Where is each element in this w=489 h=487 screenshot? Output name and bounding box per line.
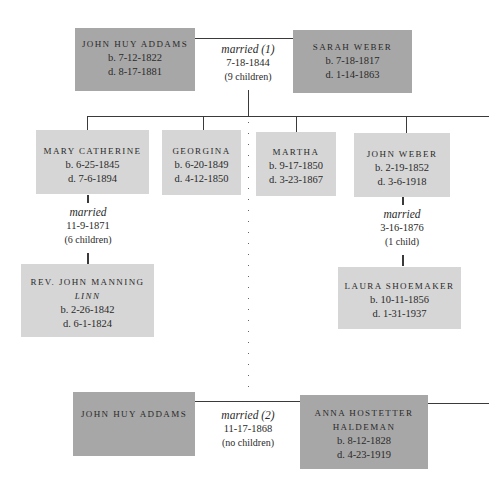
separator-dot <box>248 320 249 321</box>
separator-dot <box>248 221 249 222</box>
death-date: d. 3-23-1867 <box>256 173 336 187</box>
birth-date: b. 7-18-1817 <box>293 54 412 68</box>
marriage-date: 7-18-1844 <box>210 56 286 70</box>
separator-dot <box>248 276 249 277</box>
separator-dot <box>248 342 249 343</box>
separator-dot <box>248 177 249 178</box>
marriage-date: 11-17-1868 <box>210 422 286 436</box>
birth-date: b. 9-17-1850 <box>256 159 336 173</box>
separator-dot <box>248 265 249 266</box>
birth-date: b. 10-11-1856 <box>338 293 461 307</box>
child1-marriage-up <box>87 195 89 203</box>
death-date: d. 8-17-1881 <box>75 65 195 79</box>
separator-dot <box>248 353 249 354</box>
death-date: d. 7-6-1894 <box>36 172 149 186</box>
person-name: Mary Catherine <box>36 144 149 158</box>
person-box-john-weber[interactable]: John Weber b. 2-19-1852 d. 3-6-1918 <box>354 133 450 197</box>
marriage-label: married (2) <box>210 408 286 422</box>
death-date: d. 1-14-1863 <box>293 68 412 82</box>
child4-marriage-note: married 3-16-1876 (1 child) <box>364 207 440 249</box>
person-name: John Huy Addams <box>75 37 195 51</box>
person-name: John Weber <box>354 147 450 161</box>
separator-dot <box>248 166 249 167</box>
separator-dot <box>248 155 249 156</box>
children-count: (6 children) <box>50 233 126 247</box>
death-date: d. 4-12-1850 <box>162 172 241 186</box>
separator-dot <box>248 188 249 189</box>
separator-dot <box>248 210 249 211</box>
person-box-martha[interactable]: Martha b. 9-17-1850 d. 3-23-1867 <box>256 132 336 196</box>
person-name: Anna Hostetter <box>300 406 428 420</box>
person-name: Georgina <box>162 144 241 158</box>
person-box-anna-hostetter-haldeman[interactable]: Anna Hostetter Haldeman b. 8-12-1828 d. … <box>300 395 428 469</box>
separator-dot <box>248 232 249 233</box>
death-date: d. 1-31-1937 <box>338 307 461 321</box>
separator-dot <box>248 254 249 255</box>
child4-marriage-down <box>402 255 404 266</box>
children-bar <box>87 116 489 117</box>
person-name: John Huy Addams <box>73 407 195 421</box>
person-name: Martha <box>256 145 336 159</box>
separator-dot <box>248 298 249 299</box>
separator-dot <box>248 243 249 244</box>
separator-dot <box>248 364 249 365</box>
person-name: Laura Shoemaker <box>338 279 461 293</box>
birth-date: b. 8-12-1828 <box>300 434 428 448</box>
marriage-label: married <box>364 207 440 221</box>
person-box-mary-catherine[interactable]: Mary Catherine b. 6-25-1845 d. 7-6-1894 <box>36 130 149 194</box>
separator-dot <box>248 144 249 145</box>
separator-dot <box>248 122 249 123</box>
person-box-john-huy-addams[interactable]: John Huy Addams b. 7-12-1822 d. 8-17-188… <box>75 28 195 91</box>
marriage-date: 3-16-1876 <box>364 221 440 235</box>
birth-date: b. 6-20-1849 <box>162 158 241 172</box>
child3-drop <box>296 116 297 132</box>
person-name: Sarah Weber <box>293 40 412 54</box>
marriage1-note: married (1) 7-18-1844 (9 children) <box>210 42 286 84</box>
child4-drop <box>406 116 407 133</box>
person-box-georgina[interactable]: Georgina b. 6-20-1849 d. 4-12-1850 <box>162 130 241 195</box>
separator-dot <box>248 309 249 310</box>
marriage2-note: married (2) 11-17-1868 (no children) <box>210 408 286 450</box>
death-date: d. 4-23-1919 <box>300 448 428 462</box>
separator-dot <box>248 386 249 387</box>
marriage1-line <box>195 38 295 39</box>
marriage2-continue-line <box>428 403 489 404</box>
marriage-date: 11-9-1871 <box>50 219 126 233</box>
person-box-sarah-weber[interactable]: Sarah Weber b. 7-18-1817 d. 1-14-1863 <box>293 30 412 93</box>
birth-date: b. 2-19-1852 <box>354 161 450 175</box>
marriage1-descent-line <box>248 90 249 116</box>
birth-date: b. 6-25-1845 <box>36 158 149 172</box>
death-date: d. 6-1-1824 <box>21 317 154 331</box>
child1-marriage-down <box>87 253 89 264</box>
separator-dot <box>248 199 249 200</box>
birth-date: b. 2-26-1842 <box>21 303 154 317</box>
children-count: (9 children) <box>210 70 286 84</box>
marriage-label: married <box>50 205 126 219</box>
child2-drop <box>203 116 204 130</box>
person-box-rev-john-manning-linn[interactable]: Rev. John Manning Linn b. 2-26-1842 d. 6… <box>21 264 154 337</box>
children-count: (1 child) <box>364 235 440 249</box>
child4-marriage-up <box>402 197 404 205</box>
separator-dot <box>248 375 249 376</box>
person-name-line2: Haldeman <box>300 420 428 434</box>
children-count: (no children) <box>210 436 286 450</box>
person-name: Rev. John Manning <box>21 275 154 289</box>
child1-drop <box>87 116 88 130</box>
separator-dot <box>248 133 249 134</box>
marriage2-line <box>194 401 300 402</box>
separator-dot <box>248 331 249 332</box>
person-box-john-huy-addams-2[interactable]: John Huy Addams <box>73 392 195 456</box>
person-name-line2: Linn <box>21 289 154 303</box>
birth-date: b. 7-12-1822 <box>75 51 195 65</box>
separator-dot <box>248 287 249 288</box>
child1-marriage-note: married 11-9-1871 (6 children) <box>50 205 126 247</box>
person-box-laura-shoemaker[interactable]: Laura Shoemaker b. 10-11-1856 d. 1-31-19… <box>338 267 461 329</box>
death-date: d. 3-6-1918 <box>354 175 450 189</box>
marriage-label: married (1) <box>210 42 286 56</box>
